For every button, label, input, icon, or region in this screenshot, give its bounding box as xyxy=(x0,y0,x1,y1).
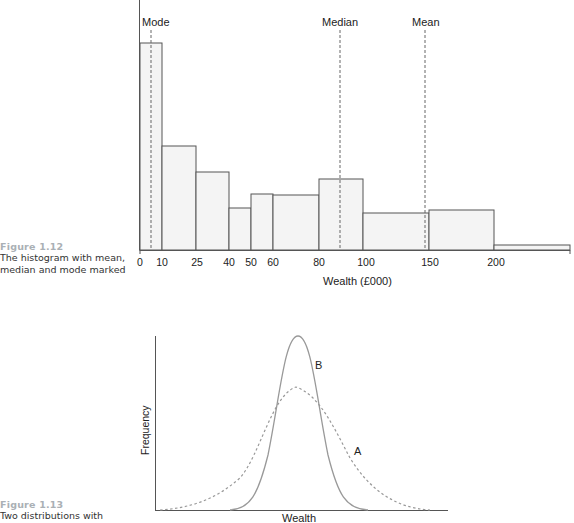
bar-10-25 xyxy=(162,146,196,250)
mean-label: Mean xyxy=(412,16,440,28)
curve-a xyxy=(160,387,430,510)
tick-label: 150 xyxy=(421,256,439,268)
y-axis-title: Frequency xyxy=(139,405,151,455)
x-axis-title: Wealth xyxy=(282,512,316,523)
bar-50-60 xyxy=(251,194,273,250)
bar-80-100 xyxy=(319,179,363,250)
curve-a-label: A xyxy=(354,445,362,457)
distribution-chart: B A Frequency Wealth xyxy=(139,336,448,523)
tick-label: 100 xyxy=(357,256,375,268)
curve-b-label: B xyxy=(315,359,322,371)
charts-canvas: Mode Median Mean 0 10 25 40 50 60 80 100… xyxy=(0,0,574,523)
mode-label: Mode xyxy=(142,16,170,28)
tick-label: 60 xyxy=(267,256,279,268)
tick-label: 80 xyxy=(313,256,325,268)
bar-40-50 xyxy=(229,208,251,250)
bar-25-40 xyxy=(196,172,229,250)
x-axis-title: Wealth (£000) xyxy=(323,275,392,287)
histogram-chart: Mode Median Mean 0 10 25 40 50 60 80 100… xyxy=(137,0,570,287)
tick-label: 0 xyxy=(137,256,143,268)
tick-label: 200 xyxy=(487,256,505,268)
curve-b xyxy=(230,336,368,510)
bar-200-plus xyxy=(494,245,570,250)
tick-label: 40 xyxy=(223,256,235,268)
histogram-bars xyxy=(140,43,570,250)
x-tick-labels: 0 10 25 40 50 60 80 100 150 200 xyxy=(137,256,505,268)
tick-label: 10 xyxy=(156,256,168,268)
tick-label: 25 xyxy=(191,256,203,268)
bar-60-80 xyxy=(273,195,319,250)
median-label: Median xyxy=(322,16,358,28)
bar-100-150 xyxy=(363,213,429,250)
tick-label: 50 xyxy=(245,256,257,268)
bar-150-200 xyxy=(429,210,494,250)
